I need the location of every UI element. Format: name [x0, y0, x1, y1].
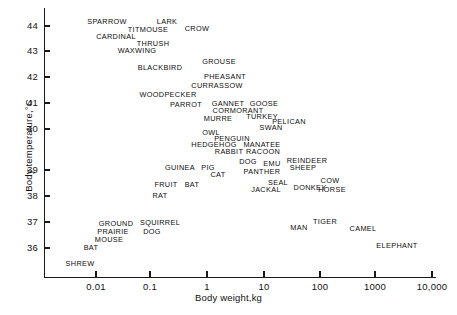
- data-point-label: WAXWING: [118, 47, 157, 54]
- data-point-label: JACKAL: [251, 186, 281, 193]
- y-tick-mark: [44, 50, 50, 51]
- x-tick-mark: [206, 271, 207, 278]
- data-point-label: ELEPHANT: [376, 242, 417, 249]
- x-tick-label: 100: [312, 281, 328, 292]
- data-point-label: WOODPECKER: [139, 91, 196, 98]
- data-point-label: SWAN: [259, 124, 282, 131]
- data-point-label: CROW: [185, 25, 210, 32]
- body-temperature-vs-body-weight-chart: 363738394041424344 0.010.1110100100010,0…: [0, 0, 457, 315]
- data-point-label: MAN: [290, 224, 307, 231]
- data-point-label: PANTHER: [244, 168, 281, 175]
- data-point-label: DOG: [239, 158, 257, 165]
- y-tick-label: 36: [0, 242, 38, 253]
- data-point-label: GUINEA: [165, 164, 195, 171]
- y-tick-mark: [44, 128, 50, 129]
- data-point-label: MURRE: [204, 115, 233, 122]
- x-tick-mark: [263, 271, 264, 278]
- data-point-label: SPARROW: [87, 18, 127, 25]
- data-point-label: SQUIRREL: [140, 219, 180, 226]
- data-point-label: CAT: [210, 171, 225, 178]
- x-axis-title: Body weight,kg: [0, 292, 457, 303]
- data-point-label: MOUSE: [95, 236, 124, 243]
- y-tick-mark: [44, 247, 50, 248]
- data-point-label: SHREW: [66, 260, 95, 267]
- data-point-label: CAMEL: [350, 225, 377, 232]
- y-tick-mark: [44, 169, 50, 170]
- x-tick-mark: [319, 271, 320, 278]
- data-point-label: RABBIT: [215, 148, 243, 155]
- y-axis-line: [44, 8, 45, 278]
- x-tick-label: 1: [204, 281, 209, 292]
- x-tick-mark: [431, 271, 432, 278]
- x-tick-label: 1000: [364, 281, 386, 292]
- data-point-label: BAT: [84, 244, 99, 251]
- data-point-label: HORSE: [318, 186, 346, 193]
- x-axis-line: [44, 277, 436, 278]
- x-tick-label: 0.01: [86, 281, 105, 292]
- data-point-label: DOG: [143, 228, 161, 235]
- y-tick-mark: [44, 221, 50, 222]
- y-axis-title: Body temperature,°C: [23, 71, 34, 221]
- x-tick-mark: [374, 271, 375, 278]
- data-point-label: TIGER: [313, 218, 337, 225]
- data-point-label: PHEASANT: [204, 73, 246, 80]
- y-tick-label: 43: [0, 45, 38, 56]
- data-point-label: BAT: [185, 181, 200, 188]
- x-tick-label: 10: [259, 281, 270, 292]
- data-point-label: SHEEP: [290, 164, 317, 171]
- x-tick-label: 10,000: [417, 281, 447, 292]
- x-tick-mark: [95, 271, 96, 278]
- data-point-label: BLACKBIRD: [138, 64, 183, 71]
- y-tick-mark: [44, 76, 50, 77]
- data-point-label: FRUIT: [154, 181, 177, 188]
- data-point-label: GROUSE: [202, 58, 236, 65]
- y-tick-mark: [44, 102, 50, 103]
- x-tick-label: 0.1: [143, 281, 157, 292]
- data-point-label: CURRASSOW: [191, 82, 242, 89]
- data-point-label: RACOON: [246, 148, 280, 155]
- data-point-label: RAT: [152, 192, 167, 199]
- y-tick-mark: [44, 195, 50, 196]
- x-tick-mark: [149, 271, 150, 278]
- data-point-label: PARROT: [170, 101, 202, 108]
- y-tick-label: 44: [0, 20, 38, 31]
- data-point-label: CARDINAL: [96, 33, 136, 40]
- y-tick-mark: [44, 25, 50, 26]
